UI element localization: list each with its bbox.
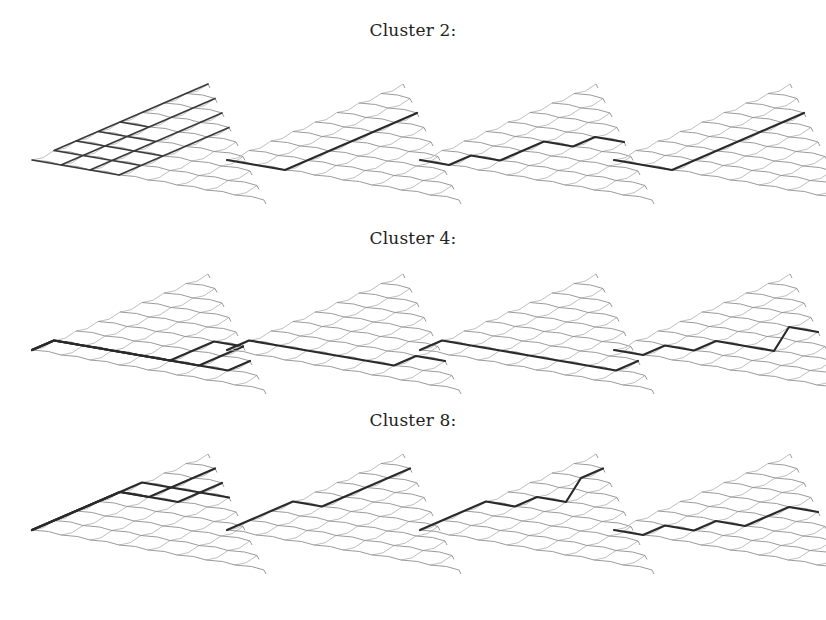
lattice-panel: [612, 265, 802, 415]
lattice-edges-horizontal: [614, 274, 826, 385]
cluster-label-4: Cluster 4:: [0, 228, 826, 248]
lattice-panel: [612, 445, 802, 595]
lattice-panel: [225, 445, 415, 595]
lattice-edges-horizontal: [32, 274, 257, 385]
lattice-edges-horizontal: [614, 454, 826, 565]
lattice-panel: [30, 445, 220, 595]
highlighted-path: [227, 341, 445, 366]
lattice-edges-diagonal: [614, 84, 826, 204]
lattice-panel: [225, 265, 415, 415]
cluster-label-2: Cluster 2:: [0, 20, 826, 40]
lattice-panel: [418, 445, 608, 595]
lattice-edges-diagonal: [614, 274, 826, 394]
lattice-panel: [30, 265, 220, 415]
lattice-panel: [418, 265, 608, 415]
highlighted-path: [32, 492, 229, 530]
lattice-edges-diagonal: [614, 454, 826, 574]
lattice-panel: [612, 75, 802, 225]
lattice-edges-horizontal: [32, 454, 257, 565]
lattice-panel: [30, 75, 220, 225]
lattice-edges-horizontal: [614, 84, 826, 195]
lattice-panel: [225, 75, 415, 225]
lattice-panel: [418, 75, 608, 225]
